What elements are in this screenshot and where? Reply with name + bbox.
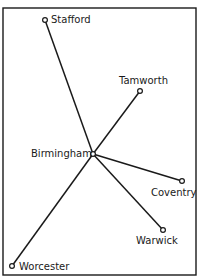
town-label: Worcester <box>19 261 70 272</box>
town-marker-icon <box>138 89 143 94</box>
town-marker-icon <box>43 18 48 23</box>
town-label: Warwick <box>136 235 178 246</box>
town-birmingham: Birmingham <box>31 148 95 159</box>
town-worcester: Worcester <box>10 261 71 272</box>
town-stafford: Stafford <box>43 14 91 25</box>
town-coventry: Coventry <box>151 179 197 198</box>
town-warwick: Warwick <box>136 228 178 246</box>
town-label: Birmingham <box>31 148 92 159</box>
route-birmingham-worcester <box>12 154 93 266</box>
town-label: Coventry <box>151 187 197 198</box>
town-marker-icon <box>10 264 15 269</box>
route-diagram: StaffordTamworthBirminghamCoventryWarwic… <box>0 0 201 279</box>
route-birmingham-tamworth <box>93 91 140 154</box>
town-markers: StaffordTamworthBirminghamCoventryWarwic… <box>10 14 197 272</box>
route-lines <box>12 20 182 266</box>
town-tamworth: Tamworth <box>118 75 168 93</box>
town-marker-icon <box>161 228 166 233</box>
town-label: Stafford <box>51 14 91 25</box>
town-marker-icon <box>180 179 185 184</box>
town-label: Tamworth <box>118 75 168 86</box>
route-birmingham-stafford <box>45 20 93 154</box>
